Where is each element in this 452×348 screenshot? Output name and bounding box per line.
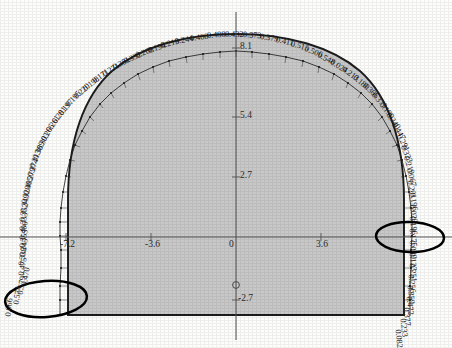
figure-canvas: 0.066 0.574 0.579 0.470 0.475 0.338 0.24…: [0, 0, 452, 348]
radial-label: 0.082: [394, 329, 405, 348]
y-axis-tick-label: 5.4: [240, 110, 252, 120]
x-axis-tick-label: -7.2: [60, 239, 75, 249]
x-axis-tick-label: 3.6: [316, 239, 328, 249]
diagram-svg: [0, 0, 452, 348]
radial-label: 0.488: [207, 30, 226, 40]
y-axis-tick-label: 2.7: [240, 170, 252, 180]
x-axis-tick-label: -3.6: [145, 239, 160, 249]
x-axis-tick-label: 0: [229, 239, 234, 249]
radial-label: 0.432: [225, 30, 243, 39]
y-axis-tick-label: 8.1: [240, 41, 252, 51]
y-axis-tick-label: -2.7: [238, 293, 253, 303]
